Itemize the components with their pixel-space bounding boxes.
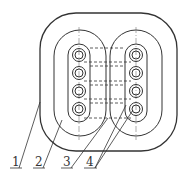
- outer-sheath: [40, 13, 177, 151]
- label-1: 1: [12, 155, 20, 169]
- label-4: 4: [86, 155, 94, 169]
- label-3: 3: [63, 155, 71, 169]
- connection-dashes: [84, 48, 131, 118]
- center-lines: [79, 27, 136, 140]
- label-2: 2: [35, 155, 43, 169]
- cable-cross-section-diagram: 1 2 3 4: [0, 0, 188, 182]
